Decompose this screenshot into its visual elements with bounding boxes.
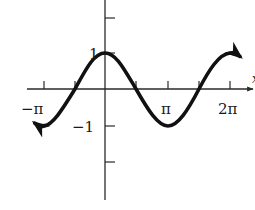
label-pi: π [161, 100, 171, 118]
cosine-graph: −π π 2π 1 −1 x [0, 0, 255, 210]
label-y-neg-one: −1 [72, 118, 94, 136]
label-two-pi: 2π [218, 100, 238, 118]
label-y-one: 1 [89, 45, 99, 63]
label-neg-pi: −π [21, 100, 44, 118]
y-ticks [105, 18, 115, 162]
label-x-axis: x [252, 72, 255, 86]
